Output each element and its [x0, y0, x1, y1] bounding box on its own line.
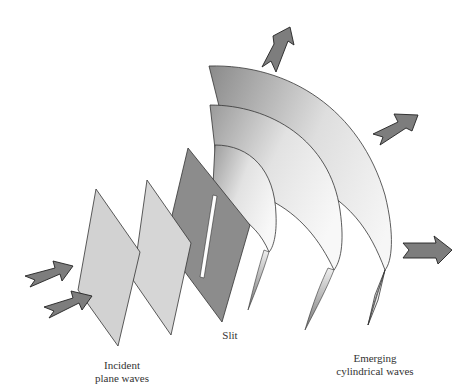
incident-plane-waves-label: Incident plane waves	[88, 359, 156, 385]
incident-arrow-lower	[44, 291, 92, 318]
slit-label: Slit	[215, 329, 245, 342]
plane-wavefront-1	[78, 189, 140, 346]
emerging-label-line2: cylindrical waves	[325, 365, 425, 378]
outgoing-arrow-right	[403, 236, 452, 264]
incident-label-line2: plane waves	[88, 372, 156, 385]
emerging-label-line1: Emerging	[325, 352, 425, 365]
outgoing-arrow-diagonal	[373, 114, 418, 145]
slit-label-text: Slit	[215, 329, 245, 342]
outgoing-arrow-up	[262, 27, 294, 72]
incident-arrow-upper	[25, 261, 73, 287]
emerging-cylindrical-waves-label: Emerging cylindrical waves	[325, 352, 425, 378]
incident-label-line1: Incident	[88, 359, 156, 372]
